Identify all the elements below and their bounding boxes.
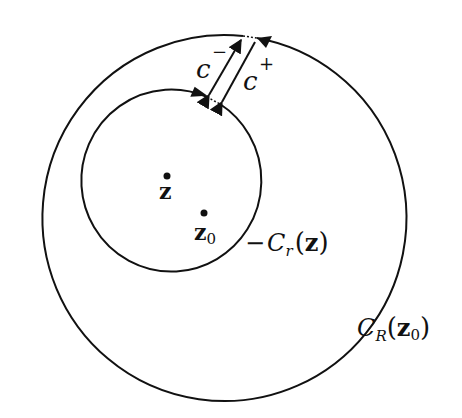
label-z: z	[159, 178, 172, 204]
label-c-plus-sup: +	[259, 53, 274, 74]
label-inner-contour: −Cr(z)	[245, 227, 329, 260]
outer-gap-dotted	[243, 36, 257, 38]
label-z0: z0	[194, 219, 216, 248]
label-c-plus: c	[243, 66, 258, 96]
contour-diagram: c − c + z z0 −Cr(z) CR(z0)	[0, 0, 462, 418]
outer-arrowhead-icon	[257, 36, 272, 48]
inner-gap-dotted	[207, 97, 220, 104]
label-c-minus-sup: −	[212, 41, 227, 62]
label-c-minus: c	[196, 54, 211, 84]
label-outer-contour: CR(z0)	[357, 312, 430, 345]
point-z0-dot	[201, 210, 208, 217]
outer-circle-contour	[42, 35, 406, 401]
